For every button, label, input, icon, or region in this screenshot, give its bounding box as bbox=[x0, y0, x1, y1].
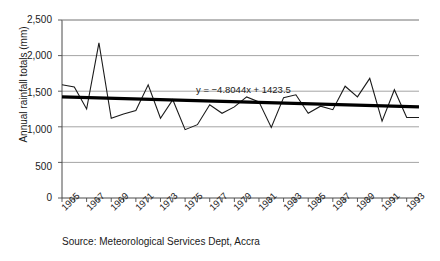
trendline-equation-label: y = −4.8044x + 1423.5 bbox=[196, 84, 291, 95]
x-axis-ticks bbox=[58, 20, 419, 202]
plot-area: y = −4.8044x + 1423.5 bbox=[0, 0, 440, 261]
rainfall-line-chart: Annual rainfall totals (mm) 2,500 2,000 … bbox=[0, 0, 440, 261]
source-caption: Source: Meteorological Services Dept, Ac… bbox=[62, 236, 260, 247]
axis-lines bbox=[62, 20, 419, 198]
trendline bbox=[62, 97, 419, 107]
